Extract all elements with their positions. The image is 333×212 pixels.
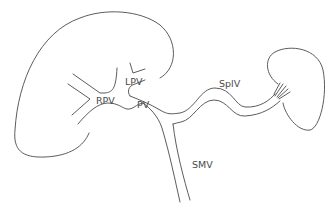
spleen-outline [267, 48, 324, 130]
portal-vein-diagram: RPV LPV PV SplV SMV [0, 0, 333, 212]
label-lpv: LPV [125, 76, 143, 87]
label-rpv: RPV [96, 95, 115, 106]
label-splv: SplV [219, 78, 241, 89]
splv-smv-right [173, 100, 280, 200]
pv-splv-upper [130, 88, 275, 114]
liver-outline [15, 12, 174, 157]
splenic-hilum-branches [274, 83, 290, 99]
pv-smv-left [143, 103, 180, 202]
label-pv: PV [137, 99, 150, 110]
label-smv: SMV [192, 159, 213, 170]
